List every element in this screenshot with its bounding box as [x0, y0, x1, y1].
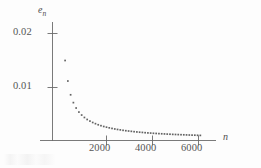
data-point [139, 131, 141, 133]
data-point [67, 80, 69, 82]
data-point [86, 119, 88, 121]
data-point [199, 135, 201, 137]
data-point [150, 132, 152, 134]
data-point [155, 133, 157, 135]
data-point [188, 134, 190, 136]
data-point [114, 128, 116, 130]
data-point [100, 125, 102, 127]
data-point [92, 122, 94, 124]
data-point [158, 133, 160, 135]
data-point [122, 129, 124, 131]
data-point [177, 134, 179, 136]
data-point [136, 131, 138, 133]
data-point [153, 132, 155, 134]
y-tick-label-0.01: 0.01 [13, 80, 32, 91]
axes-group [40, 22, 216, 141]
data-point [169, 133, 171, 135]
data-point [175, 134, 177, 136]
data-point [166, 133, 168, 135]
data-point [130, 131, 132, 133]
x-axis-label: n [223, 131, 228, 142]
data-point [180, 134, 182, 136]
data-point [84, 117, 86, 119]
data-point [97, 124, 99, 126]
scan-artifact [4, 154, 56, 165]
data-points-group [64, 60, 201, 137]
scatter-plot-canvas [0, 0, 261, 168]
data-point [119, 129, 121, 131]
figure-container: en n 0.02 0.01 2000 4000 6000 [0, 0, 261, 168]
data-point [128, 130, 130, 132]
data-point [117, 129, 119, 131]
data-point [147, 132, 149, 134]
x-tick-label-2000: 2000 [89, 142, 110, 153]
y-tick-label-0.02: 0.02 [13, 26, 32, 37]
data-point [64, 60, 66, 62]
data-point [191, 134, 193, 136]
data-point [142, 132, 144, 134]
x-tick-label-4000: 4000 [135, 142, 156, 153]
data-point [161, 133, 163, 135]
data-point [81, 114, 83, 116]
data-point [108, 127, 110, 129]
data-point [103, 126, 105, 128]
data-point [75, 107, 77, 109]
data-point [70, 94, 72, 96]
data-point [186, 134, 188, 136]
data-point [194, 134, 196, 136]
data-point [144, 132, 146, 134]
data-point [183, 134, 185, 136]
data-point [125, 130, 127, 132]
data-point [95, 123, 97, 125]
data-point [172, 134, 174, 136]
data-point [89, 120, 91, 122]
data-point [133, 131, 135, 133]
data-point [197, 134, 199, 136]
tick-marks-group [48, 34, 199, 146]
y-axis-label-subscript: n [42, 9, 46, 18]
x-tick-label-6000: 6000 [181, 142, 202, 153]
data-point [106, 126, 108, 128]
data-point [164, 133, 166, 135]
data-point [78, 111, 80, 113]
data-point [111, 128, 113, 130]
data-point [73, 102, 75, 104]
y-axis-label: en [38, 4, 46, 18]
